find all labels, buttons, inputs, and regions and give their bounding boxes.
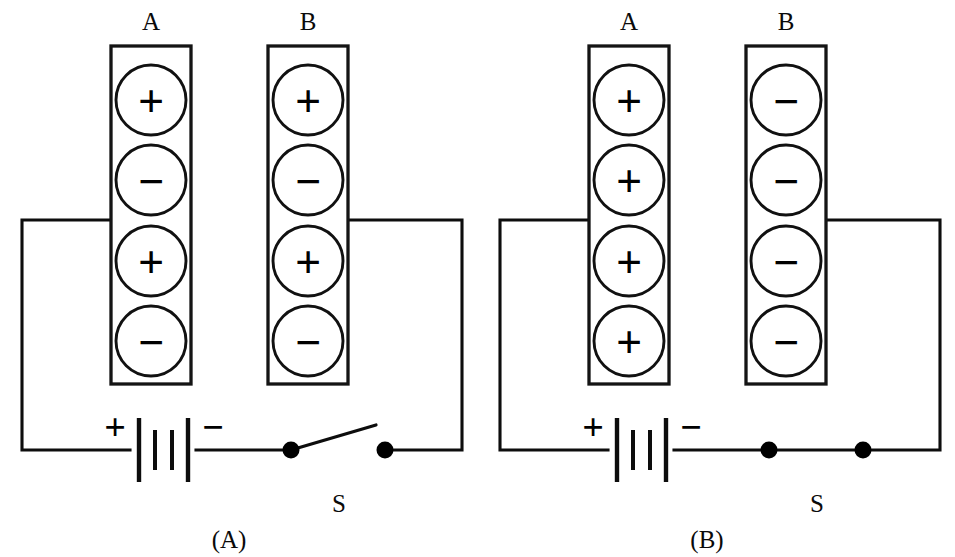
- charge-glyph: +: [295, 237, 321, 288]
- switch-contact-left-b[interactable]: [761, 442, 778, 459]
- circuit-panel-b: + − S A + + + + B − − −: [478, 0, 955, 557]
- charge-glyph: −: [138, 317, 164, 368]
- charge-glyph: −: [295, 317, 321, 368]
- panel-caption-a: (A): [212, 526, 247, 554]
- circuit-wire-right-b: [826, 220, 940, 450]
- figure-root: + − S A + − + − B + − +: [0, 0, 955, 557]
- circuit-diagram-a: + − S A + − + − B + − +: [0, 0, 477, 557]
- panel-caption-b: (B): [690, 526, 723, 554]
- charge-glyph: −: [138, 156, 164, 207]
- charge-glyph: +: [616, 76, 642, 127]
- switch-contact-right-a[interactable]: [377, 442, 394, 459]
- charge-glyph: +: [616, 237, 642, 288]
- switch-lever-a[interactable]: [291, 425, 376, 450]
- battery-negative-sign-a: −: [202, 406, 224, 448]
- battery-positive-sign-a: +: [104, 406, 126, 448]
- charge-glyph: −: [773, 317, 799, 368]
- charge-glyph: +: [138, 237, 164, 288]
- switch-contact-right-b[interactable]: [855, 442, 872, 459]
- charge-glyph: −: [295, 156, 321, 207]
- plate-label-a-b: A: [620, 8, 638, 35]
- charge-glyph: −: [773, 156, 799, 207]
- switch-label-b: S: [810, 490, 824, 517]
- charge-glyph: −: [773, 237, 799, 288]
- circuit-diagram-b: + − S A + + + + B − − −: [478, 0, 955, 557]
- charge-glyph: +: [295, 76, 321, 127]
- plate-label-b-b: B: [778, 8, 795, 35]
- plate-label-a-a: A: [142, 8, 160, 35]
- plate-label-b-a: B: [300, 8, 317, 35]
- circuit-panel-a: + − S A + − + − B + − +: [0, 0, 477, 557]
- charge-glyph: +: [616, 317, 642, 368]
- charge-glyph: −: [773, 76, 799, 127]
- circuit-wire-right-a: [348, 220, 462, 450]
- switch-label-a: S: [332, 490, 346, 517]
- charge-glyph: +: [138, 76, 164, 127]
- charge-glyph: +: [616, 156, 642, 207]
- switch-contact-left-a[interactable]: [283, 442, 300, 459]
- battery-negative-sign-b: −: [680, 406, 702, 448]
- battery-positive-sign-b: +: [582, 406, 604, 448]
